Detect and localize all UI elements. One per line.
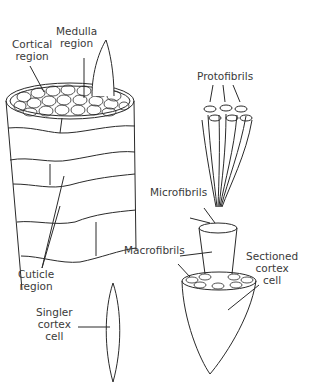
- label-cuticle-region: Cuticle region: [18, 268, 54, 292]
- label-protofibrils: Protofibrils: [197, 70, 253, 82]
- hair-shaft-illustration: [6, 40, 136, 290]
- fibril-hierarchy-illustration: [178, 85, 259, 374]
- label-microfibrils: Microfibrils: [150, 186, 207, 198]
- label-sectioned-cortex-cell: Sectioned cortex cell: [246, 250, 298, 286]
- label-medulla-region: Medulla region: [56, 25, 97, 49]
- label-cortical-region: Cortical region: [12, 38, 52, 62]
- label-single-cortex-cell: Singler cortex cell: [36, 306, 73, 342]
- label-macrofibrils: Macrofibrils: [124, 244, 185, 256]
- single-cortex-cell-illustration: [78, 283, 120, 382]
